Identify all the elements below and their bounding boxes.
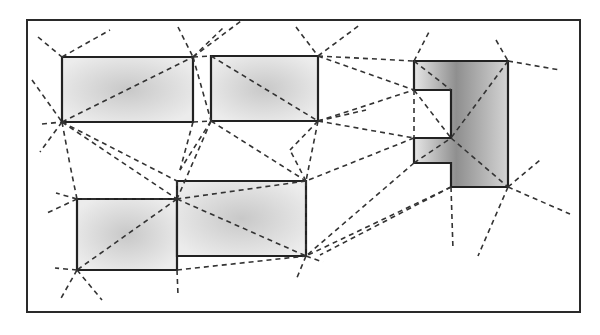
dashed-edge <box>177 270 178 295</box>
dashed-edge <box>478 187 508 256</box>
dashed-edge <box>178 27 193 57</box>
dashed-edge <box>193 56 211 57</box>
dashed-edge <box>62 122 70 165</box>
dashed-edge <box>40 122 62 152</box>
dashed-edge <box>290 121 318 150</box>
dashed-edge <box>508 160 540 187</box>
dashed-edge <box>56 193 77 199</box>
dashed-edge <box>211 121 306 181</box>
dashed-edge <box>70 165 77 199</box>
dashed-edge <box>414 90 451 138</box>
dashed-edge <box>55 268 77 270</box>
dashed-edge <box>193 21 241 57</box>
dashed-edge <box>180 122 193 170</box>
dashed-edge <box>62 30 110 57</box>
dashed-edge <box>193 121 211 122</box>
dashed-edge <box>306 121 318 181</box>
dashed-edge <box>306 163 414 256</box>
dashed-edge <box>38 37 62 57</box>
dashed-edge <box>414 30 430 61</box>
dashed-edge <box>508 61 560 70</box>
dashed-edge <box>318 24 361 56</box>
visibility-graph-diagram <box>0 0 600 335</box>
dashed-edge <box>320 187 451 255</box>
dashed-edge <box>193 27 224 57</box>
dashed-edge <box>77 270 102 300</box>
dashed-edge <box>193 57 211 121</box>
dashed-edge <box>496 40 508 61</box>
dashed-edge <box>296 27 318 56</box>
dashed-edge <box>318 56 414 61</box>
dashed-edge <box>62 122 177 181</box>
obstacle-c-shape <box>414 61 508 187</box>
dashed-edge <box>42 122 62 124</box>
dashed-edge <box>318 56 414 90</box>
dashed-edge <box>60 270 77 300</box>
dashed-edge <box>180 121 211 170</box>
dashed-edge <box>318 110 366 121</box>
dashed-edge <box>306 138 414 181</box>
dashed-edge <box>306 256 323 262</box>
dashed-edge <box>47 199 77 213</box>
dashed-edge <box>62 122 177 199</box>
dashed-edge <box>508 187 570 214</box>
dashed-edge <box>318 90 414 121</box>
dashed-edge <box>177 256 306 270</box>
dashed-edge <box>296 256 306 280</box>
dashed-edge <box>32 80 62 122</box>
dashed-edge <box>306 187 451 256</box>
dashed-edge <box>318 121 414 138</box>
dashed-edge <box>451 187 453 250</box>
obstacle-rect-e <box>177 181 306 256</box>
